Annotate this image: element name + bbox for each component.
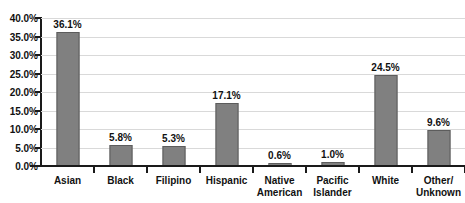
- x-axis-category-label-line: Pacific: [306, 175, 359, 187]
- bar[interactable]: [215, 103, 238, 166]
- y-axis-tick-mark: [35, 110, 41, 112]
- y-axis-tick-mark: [35, 147, 41, 149]
- bar[interactable]: [109, 145, 132, 166]
- x-axis-line: [30, 165, 465, 167]
- x-axis-category-label-line: Black: [94, 175, 147, 187]
- x-axis-tick-mark: [93, 166, 95, 173]
- y-axis-labels: 40.0%35.0%30.0%25.0%20.0%15.0%10.0%5.0%0…: [0, 0, 38, 203]
- x-axis-tick-mark: [411, 166, 413, 173]
- bar[interactable]: [427, 130, 450, 166]
- bar[interactable]: [56, 32, 79, 166]
- x-axis-category-label: White: [359, 175, 412, 187]
- bar-slot: 36.1%: [41, 18, 94, 166]
- x-axis-category-label-line: Islander: [306, 187, 359, 199]
- y-axis-tick-label: 5.0%: [0, 142, 38, 153]
- x-axis-tick-mark: [305, 166, 307, 173]
- x-axis-category-label-line: American: [253, 187, 306, 199]
- x-axis-tick-mark: [146, 166, 148, 173]
- x-axis-category-label-line: Hispanic: [200, 175, 253, 187]
- x-axis-category-label: Asian: [41, 175, 94, 187]
- x-axis-category-label: Black: [94, 175, 147, 187]
- x-axis-category-label: Filipino: [147, 175, 200, 187]
- bar-slot: 5.3%: [147, 18, 200, 166]
- x-axis-category-label-line: White: [359, 175, 412, 187]
- bar-slot: 0.6%: [253, 18, 306, 166]
- x-axis-category-label-line: Unknown: [412, 187, 465, 199]
- x-axis-category-label-line: Native: [253, 175, 306, 187]
- y-axis-tick-mark: [35, 165, 41, 167]
- bar-value-label: 17.1%: [212, 90, 240, 101]
- bar-value-label: 0.6%: [268, 150, 291, 161]
- bar-value-label: 9.6%: [427, 117, 450, 128]
- bar[interactable]: [162, 146, 185, 166]
- y-axis-tick-label: 25.0%: [0, 68, 38, 79]
- y-axis-tick-label: 30.0%: [0, 50, 38, 61]
- bar-value-label: 5.8%: [109, 132, 132, 143]
- y-axis-tick-mark: [35, 91, 41, 93]
- x-axis-category-label: Other/Unknown: [412, 175, 465, 199]
- y-axis-tick-mark: [35, 73, 41, 75]
- bar-slot: 24.5%: [359, 18, 412, 166]
- x-axis-category-label-line: Filipino: [147, 175, 200, 187]
- y-axis-tick-label: 10.0%: [0, 124, 38, 135]
- y-axis-tick-label: 35.0%: [0, 31, 38, 42]
- y-axis-tick-mark: [35, 17, 41, 19]
- bar-chart: Ethnicity of Students 40.0%35.0%30.0%25.…: [0, 0, 465, 203]
- x-axis-category-label: PacificIslander: [306, 175, 359, 199]
- bar-slot: 1.0%: [306, 18, 359, 166]
- y-axis-tick-label: 40.0%: [0, 13, 38, 24]
- bar-value-label: 1.0%: [321, 149, 344, 160]
- x-axis-category-label: NativeAmerican: [253, 175, 306, 199]
- x-axis-tick-mark: [252, 166, 254, 173]
- bar-value-label: 24.5%: [371, 62, 399, 73]
- x-axis-category-label-line: Other/: [412, 175, 465, 187]
- y-axis-tick-mark: [35, 54, 41, 56]
- x-axis-category-label-line: Asian: [41, 175, 94, 187]
- bar-slot: 5.8%: [94, 18, 147, 166]
- y-axis-tick-mark: [35, 36, 41, 38]
- y-axis-tick-label: 15.0%: [0, 105, 38, 116]
- y-axis-tick-label: 20.0%: [0, 87, 38, 98]
- bar-slot: 17.1%: [200, 18, 253, 166]
- x-axis-category-label: Hispanic: [200, 175, 253, 187]
- x-axis-tick-mark: [199, 166, 201, 173]
- bar-value-label: 36.1%: [53, 19, 81, 30]
- bar[interactable]: [374, 75, 397, 166]
- plot-area: 36.1%5.8%5.3%17.1%0.6%1.0%24.5%9.6%: [41, 18, 465, 166]
- bar-value-label: 5.3%: [162, 133, 185, 144]
- x-axis-tick-mark: [358, 166, 360, 173]
- y-axis-tick-mark: [35, 128, 41, 130]
- bar-slot: 9.6%: [412, 18, 465, 166]
